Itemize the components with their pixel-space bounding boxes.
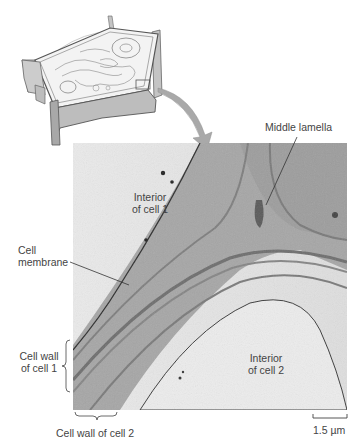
scale-bar [313,414,347,418]
label-scale-bar: 1.5 µm [313,424,345,436]
label-cell-wall-cell-1: Cell wall of cell 1 [14,350,64,374]
cell-wall-2-brace [75,412,117,420]
micrograph [0,0,362,446]
label-interior-cell-1: Interior of cell 1 [124,191,176,215]
label-cell-wall-cell-2: Cell wall of cell 2 [56,427,134,439]
label-interior-cell-2: Interior of cell 2 [238,352,294,376]
label-cell-membrane: Cell membrane [18,244,68,268]
label-middle-lamella: Middle lamella [265,121,332,133]
